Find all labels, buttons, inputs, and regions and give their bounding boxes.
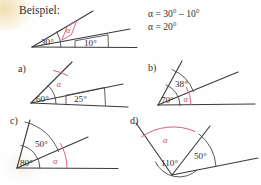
example-label-alpha: α [66,25,71,35]
figure-b: b) 70° 38° α [148,61,255,106]
figure-c-label-outer: 80° [20,158,33,168]
figure-c: c) 80° 50° α [10,115,118,169]
exercise-b-label: b) [148,62,156,74]
figure-a: a) 60° 25° α [18,62,128,107]
equation-line-1: α = 30° – 10° [148,8,200,19]
figure-d-arc-50 [199,134,216,166]
example-label-inner: 10° [84,38,97,48]
figure-d-label-inner: 50° [194,151,207,161]
figure-d-label-outer: 110° [161,158,178,168]
example-label-outer: 30° [41,37,54,47]
figure-a-label-alpha: α [57,79,62,89]
figure-b-label-alpha: α [184,94,189,104]
figure-d: d) 110° 50° α [130,115,258,177]
worksheet-figures: Beispiel: α = 30° – 10° α = 20° 30° 10° … [0,0,261,185]
figure-a-label-inner: 25° [74,94,87,104]
equation-line-2: α = 20° [148,21,177,32]
exercise-c-label: c) [10,115,18,127]
figure-c-label-alpha: α [53,156,58,166]
figure-example: 30° 10° α [32,11,137,48]
figure-d-label-alpha: α [163,135,168,145]
exercise-a-label: a) [18,63,26,75]
figure-a-label-outer: 60° [36,94,49,104]
figure-a-arc-60 [48,86,56,104]
worksheet-page: Beispiel: α = 30° – 10° α = 20° 30° 10° … [0,0,261,185]
example-arc-30 [57,32,61,47]
figure-c-label-inner: 50° [35,139,48,149]
figure-b-label-inner: 38° [175,79,188,89]
figure-b-label-outer: 70° [161,95,174,105]
figure-d-arc-alpha [142,127,196,137]
page-title: Beispiel: [19,4,60,17]
